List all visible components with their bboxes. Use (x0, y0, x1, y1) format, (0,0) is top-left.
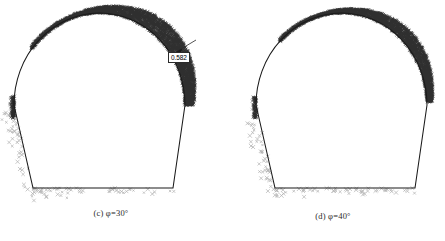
panel-d: 0.425 (d) φ=40° (222, 0, 444, 241)
figure-container: 0.582 (c) φ=30° 0.425 (d) φ=40° (0, 0, 445, 241)
panel-d-plot (222, 0, 444, 214)
panel-c: 0.582 (c) φ=30° (0, 0, 222, 241)
panel-caption-d: (d) φ=40° (222, 211, 444, 221)
tunnel-outline-c (14, 13, 185, 188)
scatter-markers-d (246, 105, 416, 198)
panel-caption-c: (c) φ=30° (0, 208, 222, 218)
plastic-zone-d (278, 7, 435, 103)
plastic-depth-callout-c: 0.582 (168, 52, 190, 63)
caption-text-d: (d) φ=40° (315, 211, 350, 221)
caption-text-c: (c) φ=30° (94, 208, 129, 218)
panel-c-plot (0, 0, 222, 214)
tunnel-outline-d (256, 13, 427, 188)
